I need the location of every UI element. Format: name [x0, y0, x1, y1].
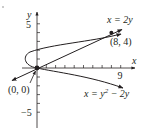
x-tick-label-9: 9 [118, 70, 123, 81]
x-axis-label: x [131, 55, 137, 66]
y-tick-label-5: 5 [26, 19, 31, 30]
parabola-equation-label: x = y2 − 2y [83, 87, 130, 99]
origin-label-pointer [30, 71, 36, 83]
intersection-label-8-4: (8, 4) [110, 36, 132, 48]
chart-canvas: y 5 −5 x 9 x = 2y (8, 4) (0, 0) x = y2 −… [0, 0, 144, 132]
bullet-dot [2, 6, 4, 8]
origin-label: (0, 0) [8, 84, 30, 96]
parabola-x-eq-y2-minus-2y [25, 34, 123, 88]
intersection-point-origin [35, 66, 40, 71]
line-equation-label: x = 2y [106, 14, 133, 25]
y-tick-label-neg5: −5 [21, 107, 32, 118]
intersection-point-8-4 [109, 31, 113, 35]
